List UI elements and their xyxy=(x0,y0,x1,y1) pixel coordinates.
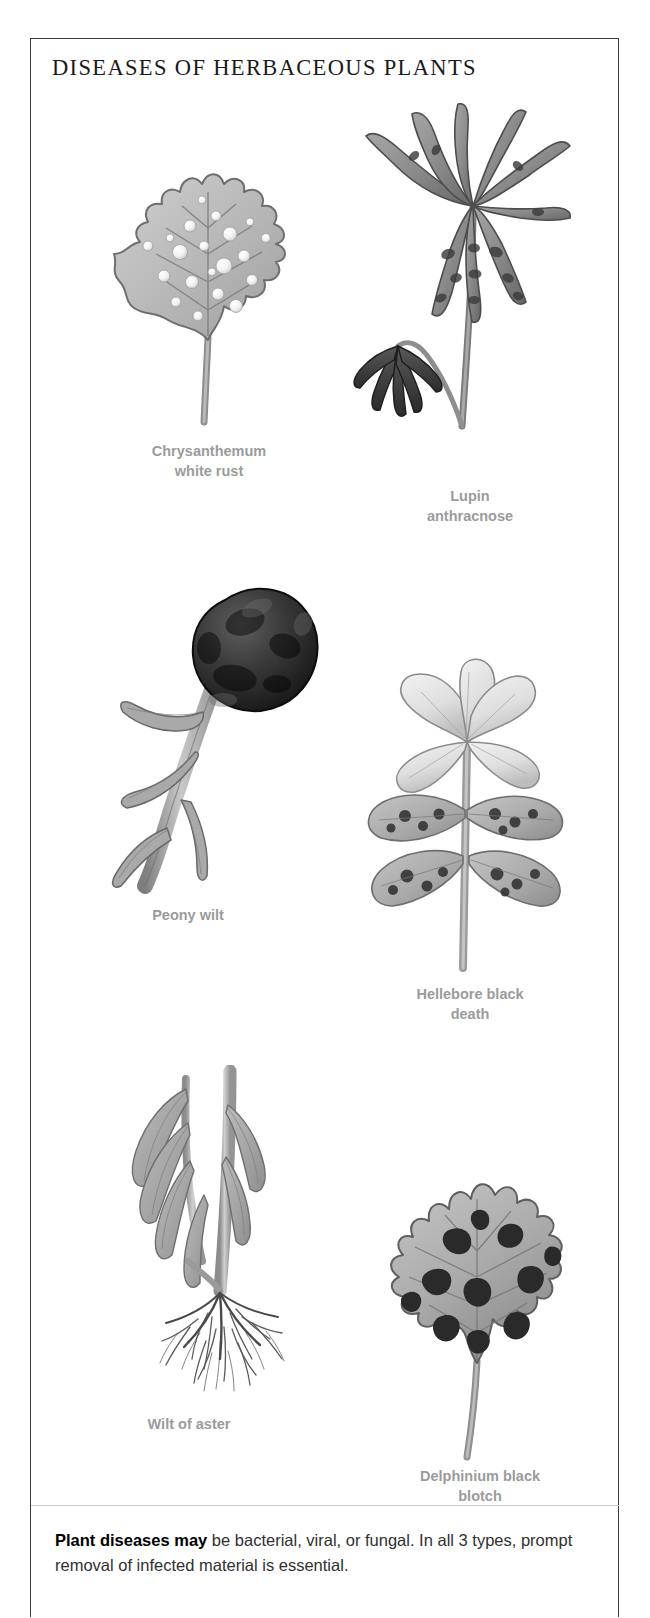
caption-lupin-anthracnose: Lupin anthracnose xyxy=(345,486,595,526)
figure-wilt-of-aster xyxy=(80,1065,330,1410)
illustration-hellebore-black-death xyxy=(345,650,595,980)
caption-delphinium-black-blotch: Delphinium black blotch xyxy=(360,1466,600,1506)
caption-chrysanthemum-white-rust: Chrysanthemum white rust xyxy=(59,441,359,481)
caption-peony-wilt: Peony wilt xyxy=(58,905,318,925)
figure-hellebore-black-death xyxy=(345,650,595,980)
caption-wilt-of-aster: Wilt of aster xyxy=(59,1414,319,1434)
footer-divider xyxy=(31,1505,619,1506)
caption-hellebore-black-death: Hellebore black death xyxy=(350,984,590,1024)
illustration-peony-wilt xyxy=(75,560,340,900)
figure-delphinium-black-blotch xyxy=(355,1155,605,1465)
figure-peony-wilt xyxy=(75,560,340,900)
illustration-wilt-of-aster xyxy=(80,1065,330,1410)
illustration-chrysanthemum-white-rust xyxy=(84,130,334,430)
figure-lupin-anthracnose xyxy=(340,96,605,476)
footer-note: Plant diseases may be bacterial, viral, … xyxy=(55,1528,600,1578)
figure-chrysanthemum-white-rust xyxy=(84,130,334,430)
illustration-delphinium-black-blotch xyxy=(355,1155,605,1465)
illustration-lupin-anthracnose xyxy=(340,96,605,476)
page-title: DISEASES OF HERBACEOUS PLANTS xyxy=(52,55,477,81)
footer-lead-in: Plant diseases may xyxy=(55,1531,207,1549)
